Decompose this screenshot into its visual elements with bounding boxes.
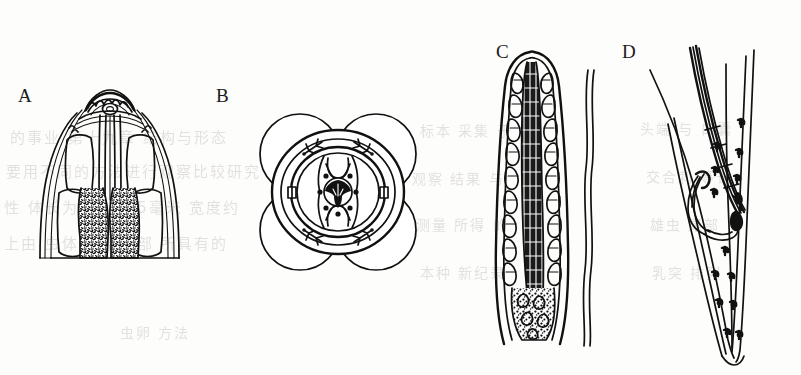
bleed-text-line: 虫卵 方法: [120, 322, 190, 342]
panel-c-tail-tip: [480, 40, 610, 370]
figure-plate: 的事业 第十九章 结构与形态要用不同的方法进行观察比较研究性 体长为 12—15…: [0, 0, 801, 375]
panel-label-b: B: [216, 86, 229, 105]
panel-a-anterior-end: [34, 80, 214, 295]
panel-d-male-posterior: [612, 34, 792, 369]
panel-label-a: A: [18, 86, 32, 105]
panel-b-en-face-view: [238, 92, 438, 292]
